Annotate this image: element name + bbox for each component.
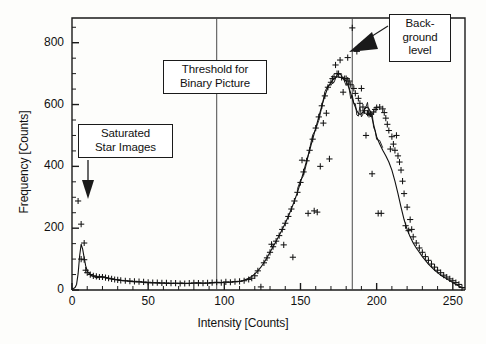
annotation-line: level [395,44,445,58]
x-tick-label: 250 [433,294,473,308]
annotation-line: ground [395,31,445,45]
y-tick-label: 400 [24,158,64,172]
annotation-line: Binary Picture [169,77,261,91]
x-tick-label: 150 [280,294,320,308]
y-tick-label: 600 [24,97,64,111]
annotation-background-level: Back- ground level [389,14,451,62]
annotation-line: Threshold for [169,63,261,77]
x-tick-label: 100 [204,294,244,308]
annotation-line: Star Images [84,141,167,155]
annotation-threshold-for-binary-picture: Threshold for Binary Picture [163,60,267,94]
annotation-line: Back- [395,17,445,31]
x-tick-label: 0 [52,294,92,308]
annotation-saturated-star-images: Saturated Star Images [78,124,173,158]
x-tick-label: 200 [357,294,397,308]
y-tick-label: 200 [24,220,64,234]
intensity-histogram-figure: Saturated Star Images Threshold for Bina… [0,0,486,344]
x-axis-title: Intensity [Counts] [0,316,486,330]
y-tick-label: 0 [24,282,64,296]
x-tick-label: 50 [128,294,168,308]
annotation-line: Saturated [84,127,167,141]
y-tick-label: 800 [24,35,64,49]
